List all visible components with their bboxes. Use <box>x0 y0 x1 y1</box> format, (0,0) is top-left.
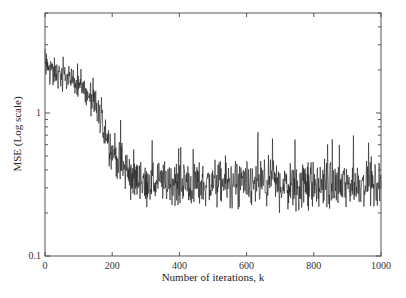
x-axis-title: Number of iterations, k <box>162 271 265 283</box>
y-axis: 0.11 <box>29 13 382 261</box>
x-tick-label: 800 <box>306 260 321 271</box>
x-tick-label: 1000 <box>371 260 391 271</box>
data-series-mse <box>45 49 381 213</box>
y-tick-label: 0.1 <box>29 250 42 261</box>
x-tick-label: 200 <box>105 260 120 271</box>
x-tick-label: 0 <box>43 260 48 271</box>
plot-frame <box>45 13 381 256</box>
y-tick-label: 1 <box>36 107 41 118</box>
mse-line <box>45 49 381 213</box>
x-axis: 02004006008001000 <box>43 13 392 271</box>
x-tick-label: 400 <box>172 260 187 271</box>
mse-chart: 02004006008001000 0.11 Number of iterati… <box>0 0 406 298</box>
x-tick-label: 600 <box>239 260 254 271</box>
y-axis-title: MSE (Log scale) <box>11 96 24 171</box>
